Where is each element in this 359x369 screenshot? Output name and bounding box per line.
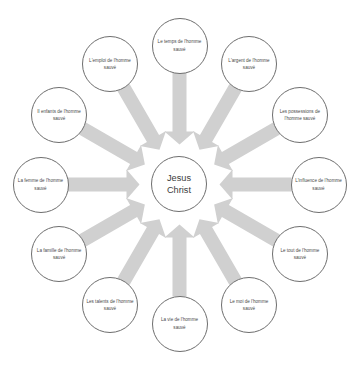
satellite-node-enfants[interactable]: Il enfants de l'homme sauvé <box>31 87 87 143</box>
arrow-famille <box>79 198 145 247</box>
satellite-label-moi: Le moi de l'homme sauvé <box>225 298 273 312</box>
arrow-influence <box>220 170 292 200</box>
satellite-label-tout: Le tout de l'homme sauvé <box>276 247 324 261</box>
satellite-node-possessions[interactable]: Les possessions de l'homme sauvé <box>272 87 328 143</box>
satellite-node-vie[interactable]: La vie de l'homme sauvé <box>152 296 208 352</box>
satellite-node-emploi[interactable]: L'emploi de l'homme sauvé <box>82 36 138 92</box>
satellite-label-femme: La femme de l'homme sauvé <box>17 177 65 191</box>
satellite-node-femme[interactable]: La femme de l'homme sauvé <box>13 157 69 213</box>
arrow-temps <box>165 73 195 145</box>
arrow-emploi <box>117 84 166 150</box>
satellite-label-enfants: Il enfants de l'homme sauvé <box>35 108 83 122</box>
satellite-node-argent[interactable]: L'argent de l'homme sauvé <box>221 36 277 92</box>
satellite-label-vie: La vie de l'homme sauvé <box>156 316 204 330</box>
arrow-enfants <box>79 122 145 171</box>
center-node-line-2: Christ <box>167 184 191 196</box>
center-node-jesus-christ[interactable]: Jesus Christ <box>151 156 207 212</box>
satellite-label-temps: Le temps de l'homme sauvé <box>156 38 204 52</box>
arrow-possessions <box>214 122 280 171</box>
radial-diagram: Jesus Christ Le temps de l'homme sauvéL'… <box>0 0 359 369</box>
arrow-vie <box>165 225 195 297</box>
satellite-node-famille[interactable]: La famille de l'homme sauvé <box>31 226 87 282</box>
arrow-argent <box>193 84 242 150</box>
center-node-line-1: Jesus <box>167 172 191 184</box>
satellite-node-influence[interactable]: L'influence de l'homme sauvé <box>291 157 347 213</box>
satellite-node-moi[interactable]: Le moi de l'homme sauvé <box>221 277 277 333</box>
arrow-femme <box>68 170 140 200</box>
satellite-node-talents[interactable]: Les talents de l'homme sauvé <box>82 277 138 333</box>
satellite-label-argent: L'argent de l'homme sauvé <box>225 57 273 71</box>
arrow-tout <box>214 198 280 247</box>
satellite-label-influence: L'influence de l'homme sauvé <box>295 177 343 191</box>
satellite-label-talents: Les talents de l'homme sauvé <box>86 298 134 312</box>
arrow-moi <box>193 219 242 285</box>
satellite-node-temps[interactable]: Le temps de l'homme sauvé <box>152 18 208 74</box>
arrow-talents <box>117 219 166 285</box>
satellite-label-famille: La famille de l'homme sauvé <box>35 247 83 261</box>
satellite-node-tout[interactable]: Le tout de l'homme sauvé <box>272 226 328 282</box>
center-node-text: Jesus Christ <box>167 172 191 197</box>
satellite-label-possessions: Les possessions de l'homme sauvé <box>276 108 324 122</box>
satellite-label-emploi: L'emploi de l'homme sauvé <box>86 57 134 71</box>
